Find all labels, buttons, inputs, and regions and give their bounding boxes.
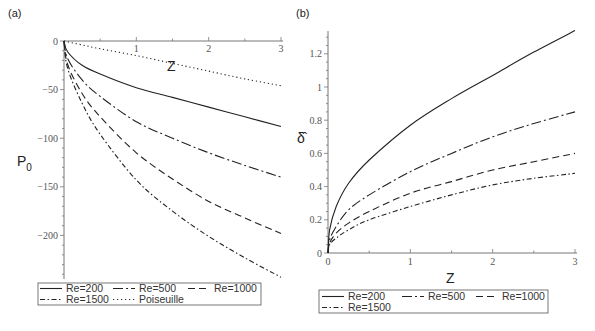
x-tick-label: 0 (326, 256, 331, 267)
legend-label: Re=1000 (214, 282, 257, 294)
panel-a-curves (64, 41, 281, 277)
y-tick-label: 1.2 (310, 48, 323, 59)
y-tick-label: 1 (317, 82, 322, 93)
y-tick-label: 0 (317, 248, 322, 259)
y-tick-label: 0 (53, 36, 58, 47)
panel-b-y-axis-title: δ̂ (297, 130, 308, 146)
y-tick-label: 0.4 (310, 181, 323, 192)
panel-b-label: (b) (296, 7, 309, 19)
panel-a-x-axis-title: Z (167, 58, 176, 74)
panel-b-legend: Re=200Re=500Re=1000Re=1500 (319, 290, 548, 313)
legend-label: Poiseuille (139, 293, 184, 305)
series-re-500 (328, 112, 575, 253)
panel-b-curves (328, 31, 575, 253)
x-tick-label: 3 (573, 256, 578, 267)
y-tick-label: −100 (37, 133, 58, 144)
x-tick-label: 2 (206, 43, 211, 54)
y-tick-label: −150 (37, 181, 58, 192)
legend-label: Re=1000 (502, 290, 545, 302)
y-tick-label: −200 (37, 230, 58, 241)
y-tick-label: −50 (42, 84, 58, 95)
figure: (a) 1230−50−100−150−200 Z P0 Re=200Re=50… (0, 0, 595, 331)
panel-a-y-axis-title: P0 (17, 153, 32, 173)
x-tick-label: 1 (408, 256, 413, 267)
series-re-1000 (328, 153, 575, 253)
legend-label: Re=500 (428, 290, 465, 302)
legend-label: Re=1500 (348, 301, 391, 313)
series-re-1500 (64, 41, 281, 277)
x-tick-label: 2 (490, 256, 495, 267)
panel-b-x-axis-title: Z (446, 270, 455, 286)
legend-label: Re=1500 (66, 293, 109, 305)
panel-b-axes: 012300.20.40.60.811.2 (310, 31, 578, 267)
y-tick-label: 0.2 (310, 214, 323, 225)
panel-a-axes: 1230−50−100−150−200 (37, 36, 283, 280)
series-re-200 (64, 41, 281, 127)
panel-a-pressure-chart: (a) 1230−50−100−150−200 Z P0 Re=200Re=50… (8, 7, 284, 305)
y-tick-label: 0.6 (310, 148, 323, 159)
panel-b-thickness-chart: (b) 012300.20.40.60.811.2 Z δ̂ Re=200Re=… (296, 7, 578, 313)
panel-a-label: (a) (8, 7, 21, 19)
panel-a-legend: Re=200Re=500Re=1000Re=1500Poiseuille (38, 282, 261, 305)
y-tick-label: 0.8 (310, 115, 323, 126)
x-tick-label: 1 (134, 43, 139, 54)
x-tick-label: 3 (279, 43, 284, 54)
series-re-200 (328, 31, 575, 253)
